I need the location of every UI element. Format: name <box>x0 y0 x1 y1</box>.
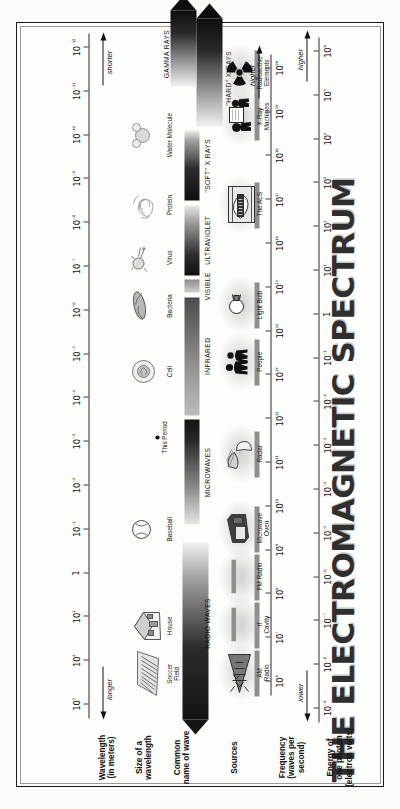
axis-tick-label: 10⁻¹¹ <box>70 74 82 108</box>
axis-tick <box>265 505 270 506</box>
axis-tick <box>83 353 88 354</box>
axis-tick <box>83 703 88 704</box>
axis-tick-label: 10⁻⁶ <box>321 560 333 594</box>
axis-tick-label: 10¹⁷ <box>273 182 285 216</box>
higher-frequency-arrow <box>258 52 259 98</box>
axis-tick <box>83 484 88 485</box>
axis-tick-label: 10⁵ <box>321 78 333 112</box>
axis-tick <box>313 707 318 708</box>
size-object-label: Bacteria <box>165 279 172 331</box>
axis-tick-label: 10¹² <box>273 401 285 435</box>
band-label: "SOFT" X RAYS <box>203 121 210 209</box>
axis-tick <box>265 67 270 68</box>
axis-tick-label: 10⁻³ <box>321 428 333 462</box>
axis-tick <box>265 198 270 199</box>
house-icon <box>130 605 164 645</box>
light-bulb-icon <box>224 291 250 317</box>
axis-tick <box>83 396 88 397</box>
axis-tick-label: 10³ <box>70 687 82 721</box>
axis-tick-label: 10² <box>321 209 333 243</box>
virus-icon <box>130 242 150 272</box>
axis-tick <box>313 663 318 664</box>
shorter-direction-arrow <box>102 39 103 85</box>
band-label: GAMMA RAYS <box>162 10 169 98</box>
source-label: AM Radio <box>255 646 269 698</box>
source-icon-wrap <box>224 504 254 552</box>
axis-tick-label: 10⁻¹⁰ <box>70 118 82 152</box>
microwave-oven-icon <box>224 511 250 545</box>
xray-machine-icon <box>224 98 252 134</box>
axis-tick <box>83 528 88 529</box>
size-object <box>130 647 164 699</box>
axis-tick-label: 10⁻² <box>70 468 82 502</box>
axis-tick <box>265 417 270 418</box>
axis-tick <box>313 444 318 445</box>
size-object-label: Protein <box>165 179 172 231</box>
band-infrared <box>184 297 199 415</box>
big-arrow-gamma-rays <box>170 0 196 86</box>
axis-tick-label: 10⁻¹² <box>70 30 82 64</box>
axis-tick <box>313 50 318 51</box>
axis-tick-label: 10⁸ <box>273 577 285 611</box>
source-icon-wrap <box>224 429 254 477</box>
protein-icon <box>130 190 154 220</box>
source-icon-wrap <box>224 337 254 385</box>
band--soft-x-rays <box>184 130 199 200</box>
higher-energy-arrow <box>306 37 307 81</box>
axis-tick-label: 10⁴ <box>321 122 333 156</box>
size-object-label: Water Molecule <box>165 109 172 161</box>
axis-tick <box>83 440 88 441</box>
axis-tick <box>265 680 270 681</box>
axis-tick-label: 10¹ <box>321 253 333 287</box>
axis-tick <box>313 269 318 270</box>
size-object <box>130 599 164 651</box>
source-label: People <box>255 335 262 387</box>
cell-icon <box>130 358 156 384</box>
soccer-field-icon <box>130 648 164 698</box>
axis-tick <box>265 242 270 243</box>
axis-tick <box>265 374 270 375</box>
axis-tick <box>83 615 88 616</box>
axis-tick-label: 10⁹ <box>273 533 285 567</box>
axis-tick-label: 10³ <box>321 165 333 199</box>
axis-tick-label: 10² <box>70 643 82 677</box>
axis-tick-label: 1 <box>70 556 80 590</box>
baseball-icon <box>130 518 152 540</box>
axis-tick-label: 10⁻⁹ <box>321 691 333 725</box>
axis-tick <box>265 593 270 594</box>
spectrum-chart-stage: THE ELECTROMAGNETIC SPECTRUM Wavelength … <box>22 27 378 782</box>
band-visible <box>184 279 199 292</box>
lower-energy-caption: lower <box>295 670 304 714</box>
row-label-sources: Sources <box>229 718 238 796</box>
water-molecule-icon <box>130 122 152 148</box>
row-label-energy: Energy of one photon (electron volts) <box>325 718 353 796</box>
size-object <box>130 109 164 161</box>
axis-tick-label: 10¹⁸ <box>273 139 285 173</box>
size-object-label: House <box>165 599 172 651</box>
am-radio-tower-icon <box>224 650 254 694</box>
shorter-caption: shorter <box>104 39 113 85</box>
axis-tick-label: 10⁻⁶ <box>70 293 82 327</box>
axis-tick <box>313 400 318 401</box>
electromagnetic-spectrum-poster: THE ELECTROMAGNETIC SPECTRUM Wavelength … <box>0 0 400 809</box>
axis-tick <box>313 532 318 533</box>
axis-tick-label: 10⁻⁵ <box>70 337 82 371</box>
size-object <box>130 231 164 283</box>
row-label-wavelength: Wavelength (in meters) <box>97 718 116 796</box>
source-icon-wrap <box>224 552 254 600</box>
source-label: The ALS <box>255 178 262 230</box>
axis-tick <box>313 357 318 358</box>
axis-tick <box>265 636 270 637</box>
axis-tick <box>83 309 88 310</box>
axis-tick-label: 10¹ <box>70 599 82 633</box>
axis-tick-label: 10⁻⁴ <box>70 380 82 414</box>
axis-tick <box>265 330 270 331</box>
longer-caption: longer <box>104 666 113 712</box>
axis-tick <box>83 134 88 135</box>
axis-tick-label: 10¹⁶ <box>273 226 285 260</box>
size-object-label: Cell <box>165 345 172 397</box>
size-object-label: Soccer Field <box>165 647 179 699</box>
axis-tick-label: 10⁻² <box>321 384 333 418</box>
axis-tick <box>83 221 88 222</box>
axis-tick-label: 1 <box>321 297 331 331</box>
